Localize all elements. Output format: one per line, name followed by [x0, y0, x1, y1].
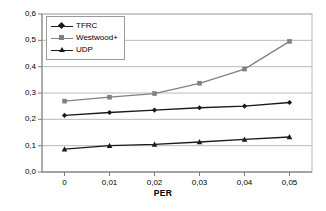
x-tick-label: 0,04: [228, 179, 262, 187]
legend-item-1: Westwood+: [51, 32, 118, 44]
x-tick-label: 0,01: [93, 179, 127, 187]
chart-legend: TFRC Westwood+ UDP: [46, 16, 125, 60]
legend-label-0: TFRC: [76, 22, 97, 30]
x-tick-label: 0,05: [273, 179, 307, 187]
x-tick-label: 0,02: [138, 179, 172, 187]
legend-marker-square-icon: [51, 33, 73, 43]
legend-item-2: UDP: [51, 44, 118, 56]
x-tick-label: 0,03: [183, 179, 217, 187]
y-tick-label: 0,5: [14, 36, 36, 44]
y-tick-label: 0,0: [14, 168, 36, 176]
y-tick-label: 0,4: [14, 63, 36, 71]
x-tick-label: 0: [48, 179, 82, 187]
chart-container: TFRC Westwood+ UDP 0,00,10,20,30,40,50,6…: [0, 0, 326, 211]
y-tick-label: 0,1: [14, 142, 36, 150]
legend-marker-triangle-icon: [51, 45, 73, 55]
y-tick-label: 0,6: [14, 10, 36, 18]
legend-item-0: TFRC: [51, 20, 118, 32]
x-axis-title: PER: [0, 188, 326, 198]
y-tick-label: 0,3: [14, 89, 36, 97]
y-tick-label: 0,2: [14, 115, 36, 123]
legend-marker-diamond-icon: [51, 21, 73, 31]
legend-label-2: UDP: [76, 46, 93, 54]
legend-label-1: Westwood+: [76, 34, 118, 42]
